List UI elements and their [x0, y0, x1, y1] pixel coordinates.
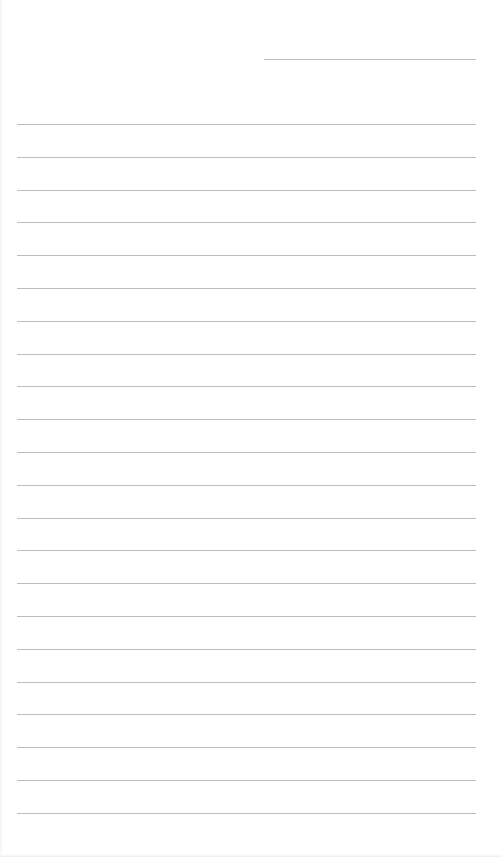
ruled-line [17, 321, 476, 322]
ruled-line [17, 354, 476, 355]
header-name-line [264, 59, 476, 60]
page-left-edge [0, 0, 3, 857]
ruled-line [17, 288, 476, 289]
ruled-line [17, 222, 476, 223]
ruled-line [17, 780, 476, 781]
ruled-line [17, 583, 476, 584]
ruled-line [17, 386, 476, 387]
lined-paper-page [0, 0, 502, 857]
ruled-line [17, 190, 476, 191]
ruled-line [17, 649, 476, 650]
ruled-line [17, 452, 476, 453]
ruled-line [17, 157, 476, 158]
ruled-line [17, 518, 476, 519]
ruled-line [17, 747, 476, 748]
ruled-line [17, 485, 476, 486]
ruled-line [17, 813, 476, 814]
ruled-line [17, 255, 476, 256]
ruled-line [17, 550, 476, 551]
ruled-line [17, 616, 476, 617]
ruled-line [17, 714, 476, 715]
ruled-line [17, 682, 476, 683]
ruled-line [17, 124, 476, 125]
ruled-line [17, 419, 476, 420]
